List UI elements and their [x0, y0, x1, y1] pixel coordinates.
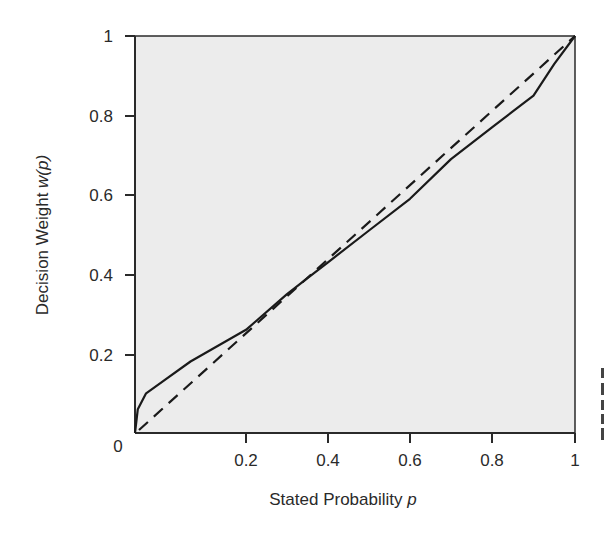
y-tick-label: 0.4 [89, 266, 113, 285]
caption-fragment [601, 428, 604, 440]
x-axis-label: Stated Probability p [269, 490, 416, 509]
chart-canvas: 0.20.40.60.81 0.20.40.60.81 0 Stated Pro… [0, 0, 606, 544]
x-tick-label: 0.2 [234, 451, 258, 470]
caption-fragment [601, 368, 604, 378]
caption-fragment [601, 383, 604, 395]
y-ticks: 0.20.40.60.81 [89, 27, 135, 365]
caption-fragment [601, 400, 604, 410]
x-ticks: 0.20.40.60.81 [234, 433, 580, 470]
x-tick-label: 0.6 [398, 451, 422, 470]
y-axis-label: Decision Weight w(p) [33, 155, 52, 315]
y-tick-label: 0.6 [89, 186, 113, 205]
origin-label: 0 [113, 437, 122, 456]
x-tick-label: 0.4 [316, 451, 340, 470]
y-tick-label: 0.8 [89, 107, 113, 126]
y-tick-label: 0.2 [89, 346, 113, 365]
caption-fragment [601, 414, 604, 424]
x-tick-label: 0.8 [480, 451, 504, 470]
y-tick-label: 1 [104, 27, 113, 46]
x-tick-label: 1 [570, 451, 579, 470]
